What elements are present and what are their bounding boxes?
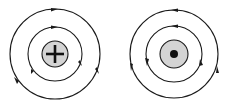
dot-icon bbox=[170, 50, 178, 58]
diagram-dot-counterclockwise bbox=[130, 9, 219, 99]
field-diagrams bbox=[0, 0, 230, 107]
diagram-plus-clockwise bbox=[10, 8, 100, 99]
